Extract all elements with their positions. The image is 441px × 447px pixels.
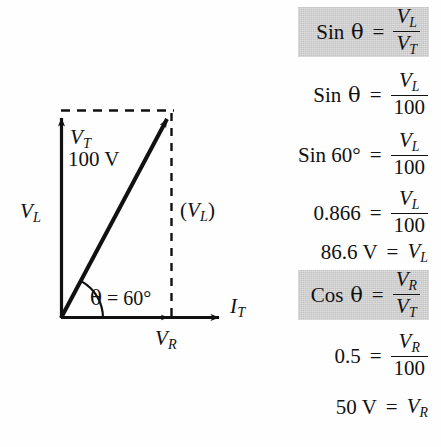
equation-lhs: 86.6 V (321, 240, 378, 265)
numerator-symbol: V (399, 186, 412, 210)
numerator-symbol: V (396, 267, 409, 291)
fraction-denominator: 100 (391, 213, 429, 236)
equation-lhs: Cos θ (311, 283, 363, 308)
equation-rhs: VL100 (391, 189, 429, 237)
fraction-numerator: VL (396, 188, 423, 213)
fraction-numerator: VR (393, 269, 420, 294)
fraction-denominator: 100 (391, 95, 429, 118)
label-vt-magnitude: 100 V (68, 148, 120, 170)
fraction-denominator: 100 (391, 155, 429, 178)
figure-page: VT 100 V VL (VL) θ = 60° VR IT Sin θ=VLV… (0, 0, 441, 447)
equation-lhs-symbol: θ (344, 20, 363, 44)
equation-row-cos-theta-definition: Cos θ=VRVT (298, 270, 429, 320)
label-vl-axis: VL (20, 200, 41, 225)
equals-sign: = (373, 20, 385, 45)
equation-row-sin-60-over-100: Sin 60°=VL100 (282, 130, 441, 180)
label-it: IT (230, 295, 245, 320)
equals-sign: = (370, 344, 382, 369)
denominator-symbol: 100 (394, 95, 426, 119)
denominator-subscript: T (409, 304, 417, 319)
label-vr: VR (155, 327, 177, 352)
rhs-symbol: V (407, 239, 420, 263)
equation-lhs: 0.866 (313, 201, 360, 226)
fraction: VL100 (391, 188, 429, 236)
equation-row-sin-theta-over-100: Sin θ=VL100 (282, 70, 441, 120)
rhs-subscript: L (420, 249, 428, 264)
equation-rhs: VRVT (393, 270, 420, 320)
rhs-symbol: V (407, 394, 420, 418)
equation-rhs: VLVT (393, 7, 420, 57)
numerator-subscript: R (409, 278, 417, 293)
equation-rhs: VR (407, 394, 428, 421)
equation-rhs: VL (407, 239, 428, 266)
label-vl-parallel: (VL) (180, 199, 215, 224)
numerator-subscript: L (409, 15, 417, 30)
equation-row-point5-over-100: 0.5=VR100 (282, 331, 441, 381)
equation-rhs: VL100 (391, 131, 429, 179)
numerator-subscript: L (412, 139, 420, 154)
numerator-subscript: L (412, 197, 420, 212)
equation-lhs-symbol: θ (344, 283, 363, 307)
rhs-subscript: R (420, 404, 428, 419)
equation-rhs: VR100 (391, 332, 429, 380)
fraction-numerator: VR (396, 331, 423, 356)
equation-lhs: Sin θ (313, 83, 360, 108)
denominator-symbol: 100 (394, 356, 426, 380)
equals-sign: = (370, 83, 382, 108)
label-theta-value: θ = 60° (90, 288, 151, 309)
fraction-denominator: 100 (391, 356, 429, 379)
equation-lhs: Sin θ (316, 20, 363, 45)
fraction: VL100 (391, 70, 429, 118)
numerator-symbol: V (399, 329, 412, 353)
fraction-numerator: VL (396, 130, 423, 155)
denominator-symbol: 100 (394, 155, 426, 179)
denominator-symbol: V (396, 31, 409, 55)
fraction-denominator: VT (393, 294, 420, 320)
fraction: VLVT (393, 6, 420, 56)
equals-sign: = (370, 143, 382, 168)
denominator-symbol: 100 (394, 213, 426, 237)
denominator-symbol: V (396, 294, 409, 318)
equation-lhs: Sin 60° (298, 143, 361, 168)
numerator-symbol: V (399, 128, 412, 152)
equation-row-point866-over-100: 0.866=VL100 (282, 188, 441, 238)
equation-row-vl-result: 86.6 V=VL (282, 236, 441, 268)
equals-sign: = (387, 240, 399, 265)
equation-lhs: 50 V (336, 395, 377, 420)
equation-row-vr-result: 50 V=VR (282, 391, 441, 423)
numerator-symbol: V (399, 68, 412, 92)
equation-column: Sin θ=VLVTSin θ=VL100Sin 60°=VL1000.866=… (282, 0, 441, 447)
equals-sign: = (370, 201, 382, 226)
numerator-subscript: L (412, 79, 420, 94)
fraction: VL100 (391, 130, 429, 178)
phasor-diagram-svg (0, 0, 280, 447)
equation-lhs: 0.5 (334, 344, 360, 369)
fraction: VR100 (391, 331, 429, 379)
equation-row-sin-theta-definition: Sin θ=VLVT (298, 7, 429, 57)
equals-sign: = (372, 283, 384, 308)
fraction-numerator: VL (393, 6, 420, 31)
fraction: VRVT (393, 269, 420, 319)
equation-rhs: VL100 (391, 71, 429, 119)
fraction-denominator: VT (393, 31, 420, 57)
numerator-symbol: V (396, 4, 409, 28)
fraction-numerator: VL (396, 70, 423, 95)
equation-lhs-symbol: θ (341, 83, 360, 107)
numerator-subscript: R (411, 340, 419, 355)
phasor-diagram: VT 100 V VL (VL) θ = 60° VR IT (0, 0, 280, 447)
equals-sign: = (386, 395, 398, 420)
denominator-subscript: T (409, 41, 417, 56)
